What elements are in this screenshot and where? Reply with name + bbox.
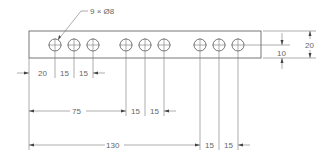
hole	[231, 38, 245, 52]
hole	[212, 38, 226, 52]
dim-130: 130	[106, 141, 120, 150]
hole	[67, 38, 81, 52]
dim-15: 15	[131, 107, 140, 116]
dim-15: 15	[79, 69, 88, 78]
dim-20-height: 20	[305, 41, 314, 50]
dim-15: 15	[224, 141, 233, 150]
hole-callout: 9 × Ø8	[90, 7, 115, 16]
hole	[119, 38, 133, 52]
holes	[48, 38, 245, 52]
hole	[157, 38, 171, 52]
hole	[48, 38, 62, 52]
hole	[86, 38, 100, 52]
dim-10: 10	[277, 49, 286, 58]
dim-15: 15	[205, 141, 214, 150]
dim-row-3	[29, 144, 250, 147]
dim-15: 15	[60, 69, 69, 78]
dim-15: 15	[150, 107, 159, 116]
hole	[193, 38, 207, 52]
hole	[138, 38, 152, 52]
extension-lines	[55, 52, 238, 150]
technical-drawing: 9 × Ø8 20 15 15 75 15 15	[0, 0, 328, 161]
callout-leader	[58, 11, 88, 40]
dim-20: 20	[38, 69, 47, 78]
dim-75: 75	[72, 107, 81, 116]
